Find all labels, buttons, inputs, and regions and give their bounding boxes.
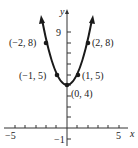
point-label-m1: (−1, 5)	[19, 70, 46, 82]
y-tick-neg1: −1	[54, 134, 65, 145]
x-axis-label: x	[129, 128, 135, 139]
x-tick-5: 5	[116, 130, 121, 141]
point-2	[86, 41, 91, 46]
point-label-vertex: (0, 4)	[71, 88, 93, 100]
point-m1	[55, 73, 60, 78]
point-vertex	[65, 83, 70, 88]
point-1	[76, 73, 81, 78]
right-arrow-icon	[89, 15, 95, 24]
point-m2	[44, 41, 49, 46]
x-tick-neg5: −5	[5, 130, 16, 141]
point-label-1: (1, 5)	[82, 70, 104, 82]
y-axis-arrow-icon	[65, 9, 69, 14]
y-tick-9: 9	[56, 27, 61, 38]
point-label-m2: (−2, 8)	[9, 37, 36, 49]
left-arrow-icon	[39, 15, 45, 24]
point-label-2: (2, 8)	[92, 37, 114, 49]
y-axis-label: y	[59, 6, 65, 17]
parabola-chart: y x 9 −1 −5 5 (−2, 8) (2, 8) (−1, 5) (1,…	[0, 0, 138, 148]
